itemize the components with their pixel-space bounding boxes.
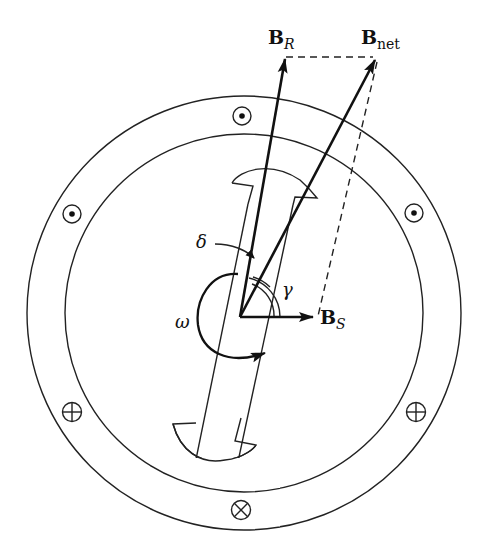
label-b-stator: BS xyxy=(320,306,346,332)
label-b-net-sub: net xyxy=(377,36,400,52)
conductor-top xyxy=(233,107,251,125)
label-b-rotor: BR xyxy=(268,26,295,52)
conductor-upper-right xyxy=(405,204,423,222)
label-delta: δ xyxy=(196,231,207,252)
parallelogram-right-dashed xyxy=(318,62,377,316)
label-omega: ω xyxy=(175,311,190,332)
label-b-net-main: B xyxy=(361,26,377,48)
machine-diagram: BR Bnet BS δ γ ω xyxy=(0,0,481,558)
label-gamma: γ xyxy=(282,279,293,300)
svg-text:BR: BR xyxy=(268,26,295,52)
conductor-lower-left xyxy=(63,403,82,422)
label-b-stator-main: B xyxy=(320,306,336,328)
label-b-rotor-main: B xyxy=(268,26,284,48)
conductor-upper-left xyxy=(63,205,81,223)
delta-leader xyxy=(215,244,254,258)
gamma-angle-arc-outer xyxy=(249,278,280,317)
vector-b-rotor xyxy=(240,59,285,317)
label-b-net: Bnet xyxy=(361,26,400,52)
conductor-lower-right xyxy=(407,403,426,422)
svg-text:Bnet: Bnet xyxy=(361,26,400,52)
stator-inner-ring xyxy=(65,134,423,492)
svg-text:BS: BS xyxy=(320,306,346,332)
label-b-stator-sub: S xyxy=(336,316,346,332)
vector-b-net xyxy=(240,60,375,317)
label-b-rotor-sub: R xyxy=(283,36,295,52)
